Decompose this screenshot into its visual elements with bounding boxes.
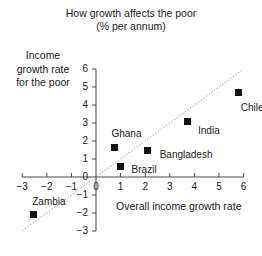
data-point-label: Chile (241, 102, 262, 113)
x-tick-label: 4 (186, 181, 202, 192)
data-point-marker (184, 118, 191, 125)
data-point-marker (111, 144, 118, 151)
y-tick-label: 5 (74, 81, 88, 92)
data-point-label: Brazil (132, 164, 157, 175)
y-tick-label: −3 (74, 225, 88, 236)
scatter-chart: How growth affects the poor (% per annum… (0, 0, 262, 256)
data-point-marker (235, 89, 242, 96)
x-tick-label: 2 (137, 181, 153, 192)
x-tick-label: 0 (88, 181, 104, 192)
data-point-label: Bangladesh (160, 149, 213, 160)
x-tick-label: −3 (14, 181, 30, 192)
y-tick-label: −2 (74, 207, 88, 218)
y-tick-label: 6 (74, 63, 88, 74)
data-point-marker (30, 211, 37, 218)
x-tick-label: 5 (211, 181, 227, 192)
y-tick-label: 3 (74, 117, 88, 128)
data-point-label: India (198, 125, 220, 136)
y-tick-label: 0 (74, 171, 88, 182)
data-point-marker (117, 163, 124, 170)
data-point-label: Ghana (111, 128, 141, 139)
y-tick-label: 1 (74, 153, 88, 164)
x-tick-label: −2 (39, 181, 55, 192)
x-tick-label: 6 (236, 181, 252, 192)
x-tick-label: 1 (113, 181, 129, 192)
data-point-marker (144, 147, 151, 154)
y-tick-label: 4 (74, 99, 88, 110)
y-tick-label: 2 (74, 135, 88, 146)
x-tick-label: 3 (162, 181, 178, 192)
y-tick-label: −1 (74, 189, 88, 200)
data-point-label: Zambia (32, 196, 65, 207)
